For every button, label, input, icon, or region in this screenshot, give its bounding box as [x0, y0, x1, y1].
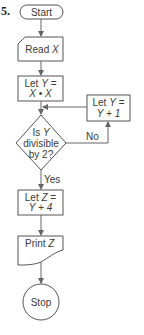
stop-terminal: Stop	[23, 284, 59, 320]
increment-expr: Y + 1	[97, 108, 120, 119]
read-var: X	[51, 44, 59, 55]
let-y-expr: X • X	[28, 88, 52, 99]
print-var: Z	[47, 238, 55, 249]
print-z-output: Print Z	[18, 236, 63, 265]
increment-process: Let Y = Y + 1	[87, 95, 130, 121]
problem-number: 5.	[1, 4, 10, 18]
yes-label: Yes	[44, 174, 60, 185]
no-label: No	[86, 131, 99, 142]
read-label: Read	[25, 44, 52, 55]
decision-line2: divisible	[23, 138, 59, 149]
start-terminal: Start	[20, 5, 63, 19]
flowchart: 5. Start Read X Let Y = X • X Let Y = Y …	[0, 0, 144, 335]
let-y-process: Let Y = X • X	[18, 76, 63, 101]
svg-text:Read X: Read X	[25, 44, 59, 55]
svg-text:Is Y: Is Y	[32, 127, 51, 138]
decision-line3: by 2?	[29, 149, 54, 160]
decision-diamond: Is Y divisible by 2?	[16, 115, 66, 170]
start-label: Start	[31, 7, 52, 18]
svg-text:Print Z: Print Z	[25, 238, 55, 249]
let-z-process: Let Z = Y + 4	[18, 190, 63, 215]
let-z-expr: Y + 4	[29, 202, 53, 213]
print-label: Print	[25, 238, 48, 249]
svg-text:Let Y =: Let Y =	[93, 97, 125, 108]
stop-label: Stop	[31, 297, 52, 308]
read-x-input: Read X	[18, 37, 63, 61]
